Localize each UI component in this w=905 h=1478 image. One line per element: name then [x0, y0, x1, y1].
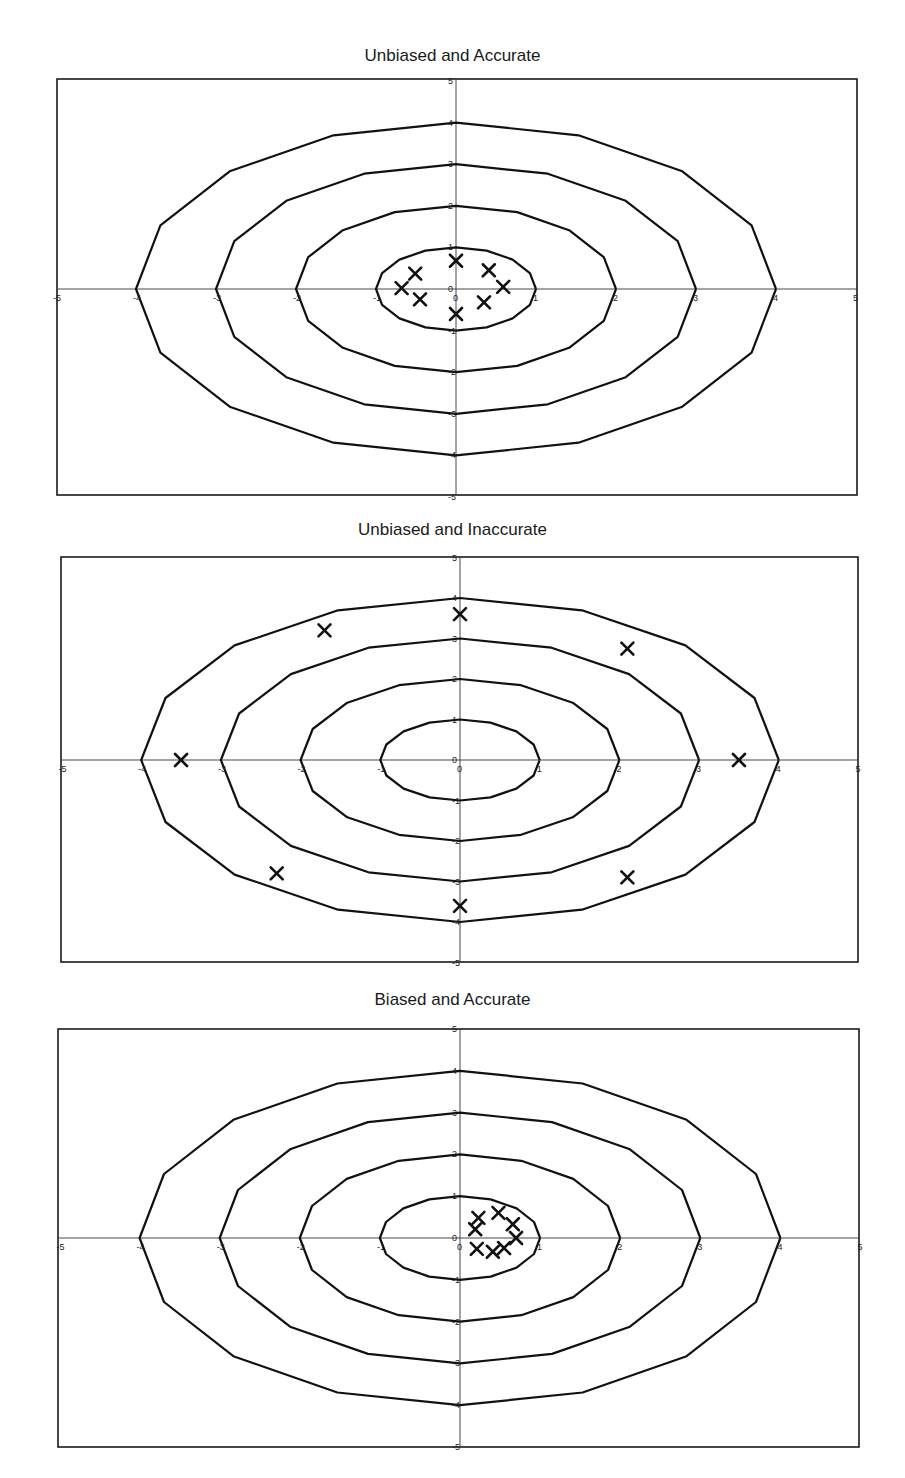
x-tick-label: -4	[137, 1242, 145, 1252]
x-tick-label: -1	[377, 1242, 385, 1252]
y-tick-label: 5	[452, 1024, 457, 1034]
y-tick-label: 4	[448, 118, 453, 128]
data-point-x-marker	[478, 296, 490, 308]
y-tick-label: -4	[452, 917, 460, 927]
x-tick-label: 4	[773, 293, 778, 303]
x-tick-label: -1	[373, 293, 381, 303]
y-tick-label: -1	[452, 796, 460, 806]
y-tick-label: 3	[448, 159, 453, 169]
data-point-x-marker	[498, 1242, 510, 1254]
y-tick-label: 1	[452, 715, 457, 725]
x-tick-label: 0	[457, 764, 462, 774]
y-tick-label: -4	[452, 1400, 460, 1410]
y-tick-label: 2	[452, 1149, 457, 1159]
x-tick-label: 5	[858, 1242, 863, 1252]
data-point-x-marker	[469, 1223, 481, 1235]
y-tick-label: 0	[448, 284, 453, 294]
x-tick-label: -5	[57, 1242, 65, 1252]
y-tick-label: -5	[452, 1442, 460, 1452]
data-point-x-marker	[483, 264, 495, 276]
y-tick-label: 1	[452, 1191, 457, 1201]
y-tick-label: -4	[448, 450, 456, 460]
plot-frame	[57, 79, 857, 495]
y-tick-label: 5	[452, 553, 457, 563]
x-tick-label: -1	[377, 764, 385, 774]
x-tick-label: -2	[297, 1242, 305, 1252]
x-tick-label: 4	[777, 1242, 782, 1252]
y-tick-label: -3	[448, 409, 456, 419]
x-tick-label: 3	[693, 293, 698, 303]
data-point-x-marker	[414, 293, 426, 305]
x-tick-label: -2	[298, 764, 306, 774]
x-tick-label: 2	[617, 1242, 622, 1252]
x-tick-label: -3	[218, 764, 226, 774]
x-tick-label: 5	[856, 764, 861, 774]
data-point-x-marker	[497, 281, 509, 293]
data-point-x-marker	[409, 268, 421, 280]
x-tick-label: 3	[697, 1242, 702, 1252]
x-tick-label: -4	[133, 293, 141, 303]
x-tick-label: 1	[537, 764, 542, 774]
x-tick-label: 0	[457, 1242, 462, 1252]
y-tick-label: -3	[452, 1358, 460, 1368]
y-tick-label: 1	[448, 242, 453, 252]
data-point-x-marker	[396, 282, 408, 294]
x-tick-label: 4	[776, 764, 781, 774]
y-tick-label: -1	[452, 1275, 460, 1285]
x-tick-label: -3	[217, 1242, 225, 1252]
x-tick-label: -2	[293, 293, 301, 303]
y-tick-label: 3	[452, 634, 457, 644]
x-tick-label: -5	[53, 293, 61, 303]
y-tick-label: -3	[452, 877, 460, 887]
data-point-x-marker	[471, 1243, 483, 1255]
y-tick-label: -2	[452, 1317, 460, 1327]
y-tick-label: -2	[448, 367, 456, 377]
y-tick-label: -5	[452, 958, 460, 968]
data-point-x-marker	[271, 867, 283, 879]
chart-0: -5-4-3-2-1012345543210-1-2-3-4-5	[53, 76, 858, 502]
x-tick-label: 1	[537, 1242, 542, 1252]
y-tick-label: -2	[452, 836, 460, 846]
y-tick-label: 0	[452, 1233, 457, 1243]
y-tick-label: 5	[448, 76, 453, 86]
y-tick-label: -5	[448, 492, 456, 502]
x-tick-label: -5	[59, 764, 67, 774]
x-tick-label: 1	[533, 293, 538, 303]
target-charts: -5-4-3-2-1012345543210-1-2-3-4-5-5-4-3-2…	[0, 0, 905, 1478]
data-point-x-marker	[492, 1207, 504, 1219]
y-tick-label: 3	[452, 1108, 457, 1118]
y-tick-label: 2	[452, 674, 457, 684]
x-tick-label: -3	[213, 293, 221, 303]
x-tick-label: 5	[853, 293, 858, 303]
y-tick-label: 2	[448, 201, 453, 211]
data-point-x-marker	[319, 624, 331, 636]
y-tick-label: 0	[452, 755, 457, 765]
data-point-x-marker	[507, 1218, 519, 1230]
data-point-x-marker	[472, 1212, 484, 1224]
chart-2: -5-4-3-2-1012345543210-1-2-3-4-5	[57, 1024, 863, 1452]
data-point-x-marker	[621, 871, 633, 883]
data-point-x-marker	[487, 1246, 499, 1258]
chart-1: -5-4-3-2-1012345543210-1-2-3-4-5	[59, 553, 861, 968]
x-tick-label: 2	[613, 293, 618, 303]
y-tick-label: -1	[448, 326, 456, 336]
x-tick-label: 0	[453, 293, 458, 303]
x-tick-label: 2	[616, 764, 621, 774]
y-tick-label: 4	[452, 593, 457, 603]
data-point-x-marker	[621, 643, 633, 655]
y-tick-label: 4	[452, 1066, 457, 1076]
x-tick-label: 3	[696, 764, 701, 774]
x-tick-label: -4	[138, 764, 146, 774]
